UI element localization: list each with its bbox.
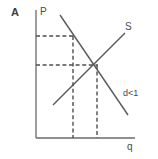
panel-label: A	[11, 7, 19, 18]
figure-canvas	[0, 0, 158, 159]
y-axis-label: P	[40, 7, 47, 17]
demand-curve-label: d<1	[123, 89, 138, 98]
x-axis-label: q	[127, 142, 133, 152]
supply-curve-label: S	[125, 22, 132, 32]
supply-demand-figure: A P q S d<1	[0, 0, 158, 159]
